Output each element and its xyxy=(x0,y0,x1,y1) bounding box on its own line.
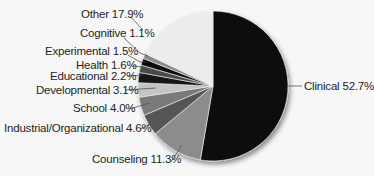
label-experimental: Experimental 1.5% xyxy=(45,45,138,58)
label-other: Other 17.9% xyxy=(81,8,143,21)
label-counseling: Counseling 11.3% xyxy=(92,153,181,166)
label-school: School 4.0% xyxy=(73,102,135,115)
label-developmental: Developmental 3.1% xyxy=(36,84,139,97)
label-clinical: Clinical 52.7% xyxy=(304,80,374,93)
label-educational: Educational 2.2% xyxy=(50,70,136,83)
label-cognitive: Cognitive 1.1% xyxy=(80,27,155,40)
label-industrial: Industrial/Organizational 4.6% xyxy=(4,122,151,135)
pie-slices xyxy=(138,11,288,161)
pie-slice-clinical xyxy=(200,11,288,161)
